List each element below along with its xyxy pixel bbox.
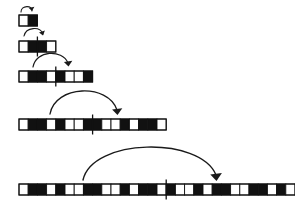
cell-empty xyxy=(185,184,194,195)
sequence-doubling-figure xyxy=(0,0,295,208)
cell-empty xyxy=(111,184,120,195)
cell-empty xyxy=(19,119,28,130)
cell-empty xyxy=(19,184,28,195)
cell-filled xyxy=(56,71,65,82)
cell-empty xyxy=(157,184,166,195)
cell-empty xyxy=(19,71,28,82)
cell-filled xyxy=(37,41,46,52)
cell-empty xyxy=(47,184,56,195)
cell-filled xyxy=(37,184,46,195)
cell-empty xyxy=(47,41,56,52)
cell-filled xyxy=(83,119,92,130)
cell-filled xyxy=(56,119,65,130)
cell-filled xyxy=(249,184,258,195)
cell-empty xyxy=(102,119,111,130)
cell-filled xyxy=(93,184,102,195)
cell-filled xyxy=(83,71,92,82)
cell-filled xyxy=(56,184,65,195)
cell-filled xyxy=(120,119,129,130)
row-4 xyxy=(19,115,166,135)
arrow-1 xyxy=(21,7,34,12)
arrow-curve xyxy=(50,91,117,114)
cell-filled xyxy=(28,184,37,195)
cell-empty xyxy=(47,119,56,130)
cell-empty xyxy=(19,15,28,26)
arrows-layer xyxy=(21,7,222,181)
cell-filled xyxy=(221,184,230,195)
cell-empty xyxy=(231,184,240,195)
row-1 xyxy=(19,15,37,26)
cell-filled xyxy=(28,41,37,52)
arrow-4 xyxy=(50,91,122,115)
cell-empty xyxy=(74,184,83,195)
cell-filled xyxy=(277,184,286,195)
cell-filled xyxy=(194,184,203,195)
arrow-curve xyxy=(83,147,216,180)
cell-filled xyxy=(148,184,157,195)
cell-filled xyxy=(37,71,46,82)
cell-filled xyxy=(166,184,175,195)
cell-filled xyxy=(83,184,92,195)
cell-filled xyxy=(93,119,102,130)
row-5 xyxy=(19,180,295,200)
arrow-curve xyxy=(33,53,68,67)
cell-filled xyxy=(28,119,37,130)
cell-empty xyxy=(175,184,184,195)
cell-filled xyxy=(28,71,37,82)
figure-canvas xyxy=(0,0,295,208)
cell-empty xyxy=(65,184,74,195)
cell-empty xyxy=(65,119,74,130)
cell-filled xyxy=(28,15,37,26)
cell-empty xyxy=(129,119,138,130)
cell-empty xyxy=(47,71,56,82)
cell-empty xyxy=(129,184,138,195)
arrow-3 xyxy=(33,53,72,67)
cell-empty xyxy=(203,184,212,195)
cell-filled xyxy=(148,119,157,130)
cell-empty xyxy=(240,184,249,195)
arrow-5 xyxy=(83,147,222,181)
cell-empty xyxy=(102,184,111,195)
arrow-head-icon xyxy=(64,61,72,67)
arrow-head-icon xyxy=(112,108,122,115)
cell-empty xyxy=(111,119,120,130)
cell-empty xyxy=(157,119,166,130)
cell-filled xyxy=(37,119,46,130)
cell-empty xyxy=(19,41,28,52)
cell-filled xyxy=(212,184,221,195)
cell-empty xyxy=(74,71,83,82)
cell-filled xyxy=(139,184,148,195)
cell-empty xyxy=(286,184,295,195)
cell-empty xyxy=(65,71,74,82)
cell-empty xyxy=(74,119,83,130)
cell-filled xyxy=(120,184,129,195)
arrow-2 xyxy=(24,29,45,36)
arrow-head-icon xyxy=(210,173,222,181)
cell-filled xyxy=(258,184,267,195)
cell-filled xyxy=(139,119,148,130)
row-3 xyxy=(19,67,93,87)
cell-empty xyxy=(267,184,276,195)
rows-layer xyxy=(19,15,295,200)
